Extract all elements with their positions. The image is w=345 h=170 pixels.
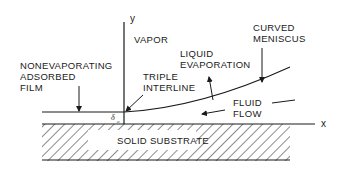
nonevap-label-2: ADSORBED <box>20 71 76 82</box>
meniscus-diagram: x y VAPOR NONEVAPORATING ADSORBED FILM T… <box>0 0 345 170</box>
liquid-label-1: LIQUID <box>180 48 213 59</box>
vapor-label: VAPOR <box>134 34 168 45</box>
fluid-flow-dash <box>272 100 295 103</box>
triple-label-1: TRIPLE <box>143 71 178 82</box>
x-axis-label: x <box>321 118 326 129</box>
delta-symbol: δ <box>111 113 115 122</box>
nonevap-label-1: NONEVAPORATING <box>20 60 113 71</box>
triple-interline-arrow <box>126 95 143 111</box>
y-axis-label: y <box>130 13 135 24</box>
nonevap-label-3: FILM <box>20 82 43 93</box>
curved-label-1: CURVED <box>253 22 295 33</box>
substrate-label: SOLID SUBSTRATE <box>117 135 209 146</box>
fluid-label-2: FLOW <box>233 108 262 119</box>
fluid-flow-arrow <box>202 110 225 114</box>
delta-subscript: o <box>117 119 120 124</box>
triple-label-2: INTERLINE <box>143 82 195 93</box>
liquid-label-2: EVAPORATION <box>180 59 251 70</box>
curved-label-2: MENISCUS <box>253 33 306 44</box>
fluid-label-1: FLUID <box>233 97 262 108</box>
